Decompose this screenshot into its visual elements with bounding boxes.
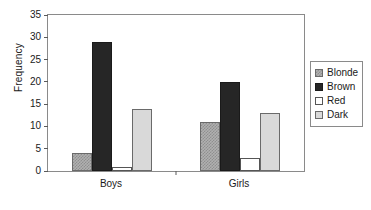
legend-rows: BlondeBrownRedDark [315,66,358,122]
legend-item-dark[interactable]: Dark [315,108,358,122]
bar-red-boys [112,167,132,171]
bar-blonde-girls [200,122,220,171]
y-axis-tick-label: 15 [30,97,41,110]
legend-label: Brown [327,80,355,94]
y-axis-tick-label: 5 [35,142,41,155]
legend-label: Red [327,94,345,108]
y-axis-title: Frequency [13,23,24,113]
plot-inner: 05101520253035 [48,15,304,171]
y-axis-tick-label: 10 [30,119,41,132]
bar-group-container [48,15,304,171]
x-axis-group-separator [176,171,177,175]
bar-red-girls [240,158,260,171]
y-axis-tick-label: 25 [30,53,41,66]
chart-legend: BlondeBrownRedDark [310,61,363,127]
bar-chart: Frequency 05101520253035 BoysGirls Blond… [0,0,371,210]
legend-label: Blonde [327,66,358,80]
y-axis-tick-label: 30 [30,30,41,43]
bar-dark-girls [260,113,280,171]
y-axis-tick-label: 0 [35,164,41,177]
x-axis-label-boys: Boys [71,178,151,189]
legend-item-red[interactable]: Red [315,94,358,108]
y-axis-tick-label: 20 [30,75,41,88]
x-axis-label-girls: Girls [199,178,279,189]
legend-swatch-blonde-icon [315,69,323,77]
legend-swatch-red-icon [315,97,323,105]
legend-swatch-brown-icon [315,83,323,91]
legend-item-brown[interactable]: Brown [315,80,358,94]
legend-label: Dark [327,108,348,122]
bar-blonde-boys [72,153,92,171]
legend-swatch-dark-icon [315,111,323,119]
bar-brown-girls [220,82,240,171]
bar-dark-boys [132,109,152,171]
bar-brown-boys [92,42,112,171]
y-axis-tick-label: 35 [30,8,41,21]
plot-area: 05101520253035 [47,14,305,172]
legend-item-blonde[interactable]: Blonde [315,66,358,80]
